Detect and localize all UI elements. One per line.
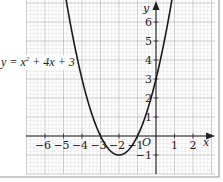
x-tick-label: 2 bbox=[190, 139, 197, 152]
x-axis-label: x bbox=[203, 136, 210, 149]
y-tick-label: 1 bbox=[145, 111, 152, 124]
x-tick-label: −5 bbox=[53, 139, 69, 152]
x-tick-label: −6 bbox=[35, 139, 51, 152]
chart-frame: −6−5−4−3−2−112−1123456xyO y = x2 + 4x + … bbox=[0, 0, 223, 182]
y-tick-label: 3 bbox=[145, 73, 152, 86]
x-tick-label: −2 bbox=[109, 139, 125, 152]
origin-label: O bbox=[142, 136, 151, 149]
y-tick-label: 6 bbox=[145, 16, 152, 29]
equation-label: y = x2 + 4x + 3 bbox=[1, 55, 76, 70]
y-tick-label: 4 bbox=[145, 54, 152, 67]
y-axis-label: y bbox=[142, 2, 150, 15]
x-tick-label: −4 bbox=[72, 139, 88, 152]
y-axis-arrow-icon bbox=[153, 1, 160, 10]
parabola-chart: −6−5−4−3−2−112−1123456xyO bbox=[0, 0, 223, 182]
y-tick-label: −1 bbox=[136, 149, 152, 162]
x-tick-label: 1 bbox=[171, 139, 178, 152]
equation-rhs: + 4x + 3 bbox=[29, 55, 75, 69]
x-tick-label: −3 bbox=[90, 139, 106, 152]
y-tick-label: 2 bbox=[145, 92, 152, 105]
labels: −6−5−4−3−2−112−1123456xyO bbox=[35, 2, 210, 162]
y-tick-label: 5 bbox=[145, 35, 152, 48]
equation-lhs: y = x bbox=[1, 55, 26, 69]
